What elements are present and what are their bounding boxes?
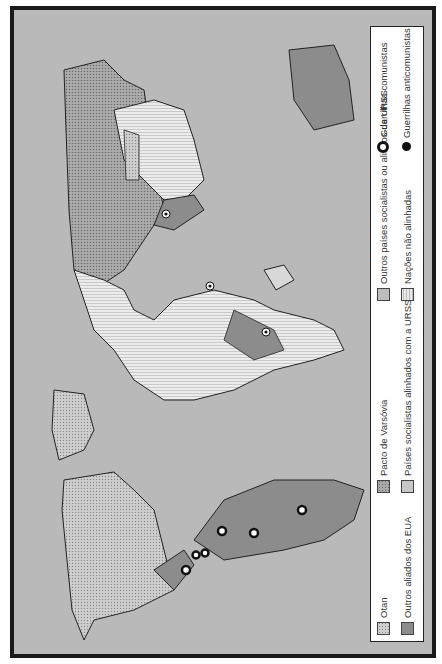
legend-item-comunistas: Guerrilhas comunistas	[377, 42, 389, 153]
oceania	[264, 45, 354, 290]
naoalinhadas-swatch-icon	[401, 288, 414, 301]
legend-item-anticomunistas: Guerrilhas anticomunistas	[401, 28, 412, 151]
map-legend: Otan Outros aliados dos EUA Pacto de Var…	[370, 26, 424, 642]
south-america	[182, 480, 364, 574]
outros-swatch-icon	[377, 288, 390, 301]
ring-marker-icon	[377, 141, 389, 153]
dot-marker-icon	[402, 142, 411, 151]
otan-swatch-icon	[377, 622, 390, 635]
north-america	[52, 390, 194, 640]
legend-label: Outros aliados dos EUA	[402, 517, 413, 618]
legend-item-varsovia: Pacto de Varsóvia	[377, 400, 390, 493]
map-frame: Otan Outros aliados dos EUA Pacto de Var…	[10, 6, 436, 658]
legend-item-otan: Otan	[377, 597, 390, 635]
legend-label: Pacto de Varsóvia	[378, 400, 389, 476]
legend-item-naoalinhadas: Nações não alinhadas	[401, 190, 414, 301]
legend-label: Guerrilhas comunistas	[378, 42, 389, 137]
legend-item-alinhados: Países socialistas alinhados com a URSS	[401, 300, 414, 493]
alinhados-swatch-icon	[401, 480, 414, 493]
legend-label: Nações não alinhadas	[402, 190, 413, 284]
legend-item-eua: Outros aliados dos EUA	[401, 517, 414, 635]
legend-label: Otan	[378, 597, 389, 618]
varsovia-swatch-icon	[377, 480, 390, 493]
legend-label: Países socialistas alinhados com a URSS	[402, 300, 413, 476]
legend-label: Guerrilhas anticomunistas	[401, 28, 412, 138]
eua-swatch-icon	[401, 622, 414, 635]
europe-africa	[74, 270, 344, 400]
